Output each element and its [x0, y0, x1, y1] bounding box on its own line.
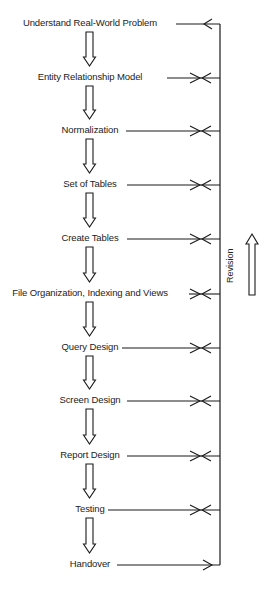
flow-down-arrow-icon — [84, 409, 96, 444]
flow-down-arrow-icon — [84, 247, 96, 282]
flow-down-arrow-icon — [84, 518, 96, 553]
flow-down-arrow-icon — [84, 356, 96, 389]
flow-down-arrow-icon — [84, 193, 96, 227]
flow-down-arrow-icon — [84, 139, 96, 173]
revision-up-arrow-icon — [246, 234, 258, 295]
flow-down-arrow-icon — [84, 464, 96, 498]
flow-down-arrow-icon — [84, 32, 96, 66]
flow-down-arrow-icon — [84, 302, 96, 336]
diagram-canvas — [0, 0, 270, 589]
flow-down-arrow-icon — [84, 86, 96, 119]
revision-label: Revision — [225, 248, 235, 283]
